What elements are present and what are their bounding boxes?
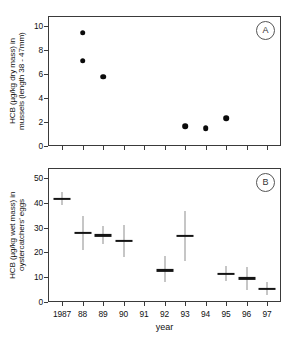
x-tick-mark bbox=[206, 146, 207, 150]
y-tick-mark bbox=[44, 252, 48, 253]
figure-container: HCB (µg/kg dry mass) in mussels (length … bbox=[0, 0, 288, 339]
x-tick-mark bbox=[226, 302, 227, 306]
x-tick-mark bbox=[165, 146, 166, 150]
x-tick-mark bbox=[267, 302, 268, 306]
data-point bbox=[80, 58, 86, 64]
y-tick-mark bbox=[44, 228, 48, 229]
x-tick-mark bbox=[185, 146, 186, 150]
y-tick-mark bbox=[44, 203, 48, 204]
y-tick-label: 2 bbox=[25, 117, 43, 127]
y-tick-label: 0 bbox=[25, 141, 43, 151]
x-tick-mark bbox=[226, 146, 227, 150]
x-tick-mark bbox=[124, 302, 125, 306]
y-tick-mark bbox=[44, 98, 48, 99]
data-point bbox=[100, 74, 106, 80]
x-tick-mark bbox=[247, 146, 248, 150]
y-tick-label: 10 bbox=[25, 272, 43, 282]
data-point bbox=[182, 123, 188, 129]
data-point bbox=[80, 30, 86, 36]
x-axis-label: year bbox=[48, 322, 281, 332]
x-tick-mark bbox=[144, 146, 145, 150]
y-tick-mark bbox=[44, 277, 48, 278]
mean-marker bbox=[54, 198, 71, 200]
x-tick-mark bbox=[165, 302, 166, 306]
mean-marker bbox=[74, 232, 91, 234]
mean-marker bbox=[95, 234, 112, 236]
x-tick-mark bbox=[267, 146, 268, 150]
mean-marker bbox=[238, 277, 255, 279]
mean-marker bbox=[218, 273, 235, 275]
data-point bbox=[223, 116, 229, 122]
y-tick-label: 50 bbox=[25, 173, 43, 183]
x-tick-mark bbox=[62, 146, 63, 150]
y-tick-mark bbox=[44, 50, 48, 51]
y-tick-mark bbox=[44, 74, 48, 75]
y-tick-label: 4 bbox=[25, 93, 43, 103]
y-tick-mark bbox=[44, 302, 48, 303]
x-tick-mark bbox=[185, 302, 186, 306]
x-tick-mark bbox=[83, 146, 84, 150]
y-tick-label: 8 bbox=[25, 45, 43, 55]
y-tick-label: 10 bbox=[25, 21, 43, 31]
y-tick-label: 0 bbox=[25, 297, 43, 307]
y-tick-label: 30 bbox=[25, 223, 43, 233]
x-tick-label: 97 bbox=[252, 309, 282, 319]
mean-marker bbox=[156, 269, 173, 271]
mean-marker bbox=[259, 288, 276, 290]
y-tick-label: 6 bbox=[25, 69, 43, 79]
x-tick-mark bbox=[247, 302, 248, 306]
mean-marker bbox=[177, 235, 194, 237]
y-tick-mark bbox=[44, 122, 48, 123]
x-tick-mark bbox=[83, 302, 84, 306]
panel-a-tag: A bbox=[256, 21, 275, 40]
mean-marker bbox=[115, 240, 132, 242]
x-tick-mark bbox=[103, 146, 104, 150]
data-point bbox=[203, 125, 209, 131]
x-tick-mark bbox=[124, 146, 125, 150]
x-tick-mark bbox=[62, 302, 63, 306]
y-tick-mark bbox=[44, 26, 48, 27]
panel-b-tag: B bbox=[256, 173, 275, 192]
x-tick-mark bbox=[144, 302, 145, 306]
x-tick-mark bbox=[103, 302, 104, 306]
y-tick-label: 20 bbox=[25, 247, 43, 257]
y-tick-mark bbox=[44, 178, 48, 179]
y-tick-label: 40 bbox=[25, 198, 43, 208]
x-tick-mark bbox=[206, 302, 207, 306]
y-tick-mark bbox=[44, 146, 48, 147]
